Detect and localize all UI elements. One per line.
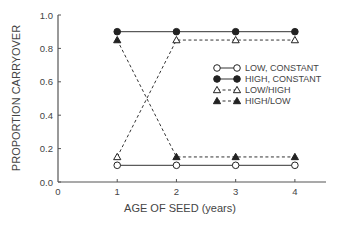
legend-marker [234, 65, 241, 72]
legend-label: HIGH/LOW [245, 96, 291, 106]
y-tick-label: 1.0 [40, 10, 53, 21]
x-tick-label: 4 [292, 186, 297, 197]
y-axis-label: PROPORTION CARRYOVER [10, 25, 22, 171]
data-point [292, 28, 299, 35]
legend-item: HIGH/LOW [213, 96, 291, 106]
data-point [292, 162, 299, 169]
x-tick-label: 2 [174, 186, 179, 197]
x-tick-label: 3 [233, 186, 238, 197]
data-point [114, 36, 121, 42]
data-point [114, 162, 121, 169]
data-point [232, 162, 239, 169]
x-tick-label: 1 [115, 186, 120, 197]
legend: LOW, CONSTANTHIGH, CONSTANTLOW/HIGHHIGH/… [213, 63, 321, 106]
legend-item: LOW/HIGH [213, 85, 290, 95]
legend-marker [214, 65, 221, 72]
data-point [173, 162, 180, 169]
series-high-constant [114, 28, 298, 35]
legend-item: LOW, CONSTANT [214, 63, 320, 73]
data-point [291, 153, 298, 159]
legend-marker [214, 76, 221, 83]
legend-item: HIGH, CONSTANT [214, 74, 322, 84]
legend-label: LOW, CONSTANT [245, 63, 319, 73]
x-axis-label: AGE OF SEED (years) [124, 202, 236, 214]
line-chart: 0.00.20.40.60.81.0 01234 PROPORTION CARR… [0, 0, 342, 229]
x-tick-label: 0 [55, 186, 60, 197]
series-low-constant [114, 162, 298, 169]
data-point [232, 28, 239, 35]
data-point [173, 28, 180, 35]
legend-marker [234, 76, 241, 83]
y-tick-label: 0.0 [40, 177, 53, 188]
data-point [114, 153, 121, 159]
y-tick-label: 0.6 [40, 76, 53, 87]
legend-label: HIGH, CONSTANT [245, 74, 322, 84]
y-tick-label: 0.4 [40, 110, 53, 121]
data-point [114, 28, 121, 35]
data-point [291, 36, 298, 42]
legend-label: LOW/HIGH [245, 85, 291, 95]
y-tick-label: 0.2 [40, 143, 53, 154]
y-tick-label: 0.8 [40, 43, 53, 54]
